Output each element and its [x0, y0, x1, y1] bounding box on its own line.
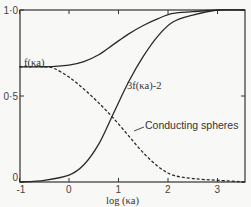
label-conducting-spheres: Conducting spheres — [145, 119, 238, 131]
svg-text:-1: -1 — [17, 184, 26, 195]
x-axis-label: log (κa) — [106, 195, 139, 207]
curves — [20, 10, 245, 182]
svg-text:0: 0 — [66, 184, 72, 195]
svg-text:1: 1 — [116, 184, 122, 195]
svg-text:2: 2 — [165, 184, 171, 195]
label-3f-2: 3f(κa)-2 — [127, 80, 161, 92]
label-f: f(κa) — [24, 57, 45, 69]
svg-text:0: 0 — [12, 172, 18, 183]
curve-3f-a-2 — [20, 10, 245, 182]
svg-text:0·5: 0·5 — [4, 91, 19, 102]
svg-text:1·0: 1·0 — [4, 5, 19, 16]
tick-labels: -1012300·51·0 — [4, 5, 221, 195]
chart: -1012300·51·0 f(κa) 3f(κa)-2 Conducting … — [0, 0, 251, 207]
svg-text:3: 3 — [215, 184, 221, 195]
axis-ticks — [20, 10, 246, 182]
plot-frame — [20, 10, 245, 182]
leader-arrow — [134, 127, 144, 131]
curve-f-a- — [20, 10, 245, 67]
